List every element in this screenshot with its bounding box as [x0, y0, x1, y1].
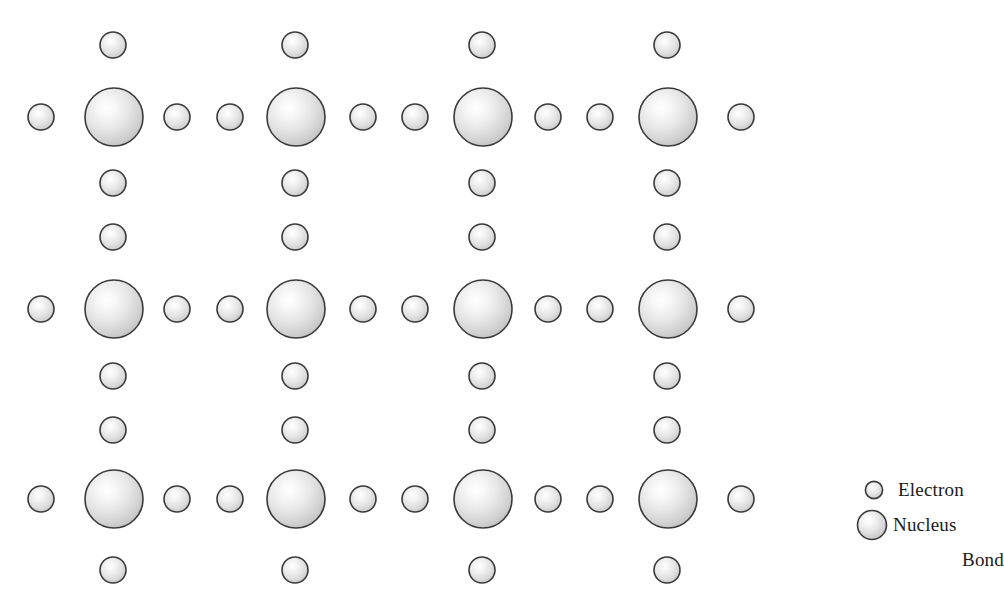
nucleus	[454, 470, 512, 528]
electron	[282, 363, 308, 389]
electron	[28, 296, 54, 322]
electron	[282, 417, 308, 443]
nucleus-icon	[855, 508, 889, 542]
electron-icon	[863, 479, 885, 501]
electron	[469, 224, 495, 250]
electron	[535, 296, 561, 322]
legend-label-electron: Electron	[898, 479, 964, 501]
electron	[100, 417, 126, 443]
electron	[587, 296, 613, 322]
electron	[28, 486, 54, 512]
electron	[469, 557, 495, 583]
nucleus	[85, 470, 143, 528]
electron	[587, 104, 613, 130]
electron	[402, 104, 428, 130]
nucleus	[85, 280, 143, 338]
electron	[402, 486, 428, 512]
electron	[654, 32, 680, 58]
electron	[217, 296, 243, 322]
nucleus	[267, 470, 325, 528]
electron	[217, 104, 243, 130]
electron	[217, 486, 243, 512]
electron	[654, 417, 680, 443]
legend-label-nucleus: Nucleus	[893, 514, 957, 536]
electron	[728, 296, 754, 322]
electron	[535, 104, 561, 130]
electron	[350, 104, 376, 130]
electron	[469, 417, 495, 443]
nucleus	[639, 470, 697, 528]
nucleus	[267, 280, 325, 338]
electron	[100, 32, 126, 58]
electron	[100, 224, 126, 250]
electron	[100, 170, 126, 196]
electron	[164, 486, 190, 512]
electron	[350, 486, 376, 512]
electron	[654, 224, 680, 250]
electron	[587, 486, 613, 512]
nucleus	[639, 280, 697, 338]
electron	[100, 557, 126, 583]
electron	[654, 170, 680, 196]
legend-item-electron: Electron	[863, 475, 964, 505]
electron	[282, 557, 308, 583]
electron	[469, 32, 495, 58]
nucleus	[85, 88, 143, 146]
electron	[469, 363, 495, 389]
electron	[282, 170, 308, 196]
electron	[654, 557, 680, 583]
electron	[164, 296, 190, 322]
electron	[282, 224, 308, 250]
diagram-canvas: Electron Nucleus Bond	[0, 0, 1004, 614]
electron	[728, 104, 754, 130]
electron	[402, 296, 428, 322]
legend-label-bond: Bond	[962, 549, 1004, 571]
legend: Electron Nucleus Bond	[845, 470, 1004, 590]
nucleus	[267, 88, 325, 146]
electron	[469, 170, 495, 196]
nucleus	[454, 88, 512, 146]
electron	[654, 363, 680, 389]
electron	[28, 104, 54, 130]
electron	[350, 296, 376, 322]
nucleus	[454, 280, 512, 338]
nucleus	[639, 88, 697, 146]
legend-item-bond: Bond	[855, 545, 1004, 575]
electron	[728, 486, 754, 512]
electron	[100, 363, 126, 389]
electron	[282, 32, 308, 58]
electron	[164, 104, 190, 130]
legend-item-nucleus: Nucleus	[855, 510, 957, 540]
electron	[535, 486, 561, 512]
